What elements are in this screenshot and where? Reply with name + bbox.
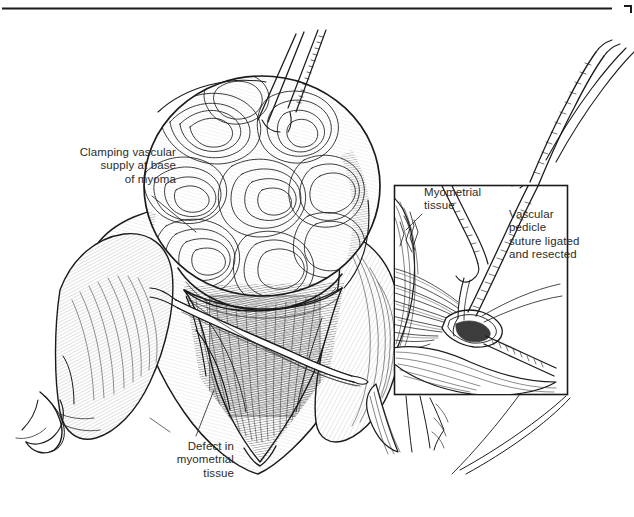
upper-instruments — [530, 40, 634, 186]
label-clamping-vascular-supply: Clamping vascular supply at base of myom… — [26, 146, 176, 186]
label-defect-in-myometrial-tissue: Defect in myometrial tissue — [128, 440, 234, 480]
plate-rules — [2, 6, 631, 13]
label-vascular-pedicle-suture-ligated: Vascular pedicle suture ligated and rese… — [509, 208, 621, 262]
uterus-left-flank — [56, 234, 173, 440]
suture-strands — [452, 394, 570, 474]
label-myometrial-tissue: Myometrial tissue — [424, 186, 520, 213]
leader-defect-secondary — [150, 418, 170, 432]
surgical-illustration-plate: Clamping vascular supply at base of myom… — [0, 0, 634, 517]
